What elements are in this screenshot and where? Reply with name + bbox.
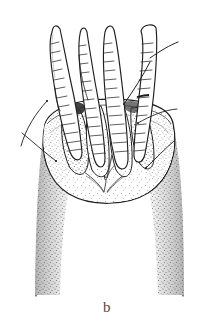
arthropod-line-drawing xyxy=(0,0,214,326)
figure-label: b xyxy=(0,298,214,316)
figure-container: b xyxy=(0,0,214,326)
